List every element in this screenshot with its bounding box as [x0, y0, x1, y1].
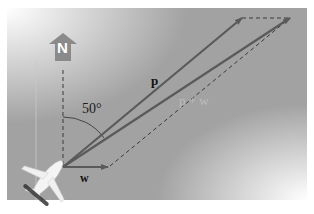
north-label: N [57, 40, 68, 55]
vector-w-label: w [80, 172, 89, 184]
vector-p-label: p [151, 74, 158, 87]
angle-label: 50° [82, 102, 102, 116]
vector-diagram: N 50° p w p + w [0, 0, 314, 214]
vector-p-plus-w-label: p + w [179, 94, 209, 107]
